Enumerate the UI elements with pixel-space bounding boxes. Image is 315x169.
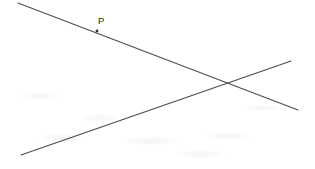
descending-line: [18, 3, 298, 110]
ascending-line: [21, 61, 291, 155]
point-p-marker: [96, 30, 99, 33]
point-p-label: P: [98, 15, 104, 26]
figure-canvas: Descending line through P P: [0, 0, 315, 169]
geometry-figure: Descending line through P P: [0, 0, 315, 169]
